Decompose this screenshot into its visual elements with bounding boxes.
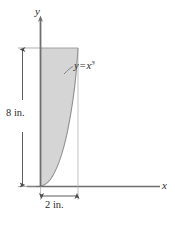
curve-equation-label: y=x3 <box>74 61 95 72</box>
curve-label-equals: = <box>79 60 87 71</box>
curve-label-exponent: 3 <box>91 59 95 67</box>
figure-drawing <box>0 0 175 225</box>
width-dimension-label: 2 in. <box>45 200 64 211</box>
curve-label-y: y <box>74 60 79 71</box>
x-axis-label: x <box>162 180 167 191</box>
height-dimension-label: 8 in. <box>6 108 25 119</box>
y-axis-label: y <box>35 6 40 17</box>
shaded-region <box>41 48 79 186</box>
figure-canvas: y x 8 in. 2 in. y=x3 <box>0 0 175 225</box>
